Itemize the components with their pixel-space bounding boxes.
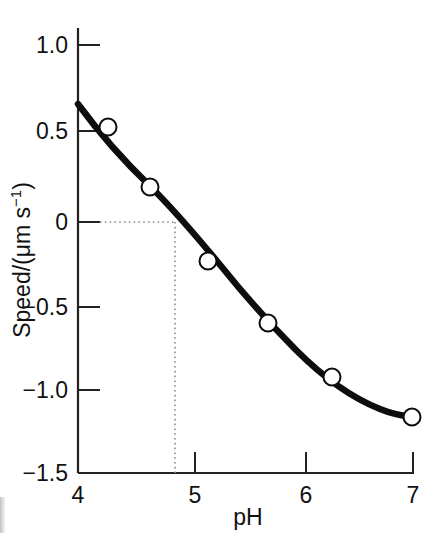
y-axis-title-exponent: −1 [7,190,24,207]
data-point-1 [142,179,159,196]
y-tick-label-1.0: 1.0 [36,32,68,58]
speed-vs-ph-plot: 1.0 0.5 0 −0.5 −1.0 −1.5 4 5 6 7 pH Spee… [0,0,438,544]
x-tick-label-7: 7 [407,482,420,508]
data-point-2 [200,253,217,270]
data-point-3 [260,315,277,332]
y-tick-label--1.0: −1.0 [23,377,68,403]
x-axis-title: pH [233,504,262,530]
y-tick-label--1.5: −1.5 [23,460,68,486]
y-axis-title-close: ) [9,182,35,190]
chart-figure: 1.0 0.5 0 −0.5 −1.0 −1.5 4 5 6 7 pH Spee… [0,0,438,544]
x-tick-label-6: 6 [300,482,313,508]
y-tick-label-0.5: 0.5 [36,118,68,144]
data-point-4 [324,369,341,386]
y-axis-title-main: Speed/(μm s [9,207,35,338]
x-tick-label-5: 5 [189,482,202,508]
y-tick-label-0: 0 [55,209,68,235]
data-point-5 [404,409,421,426]
scan-edge-artifact [0,497,5,533]
data-point-0 [100,119,117,136]
x-tick-label-4: 4 [72,482,85,508]
